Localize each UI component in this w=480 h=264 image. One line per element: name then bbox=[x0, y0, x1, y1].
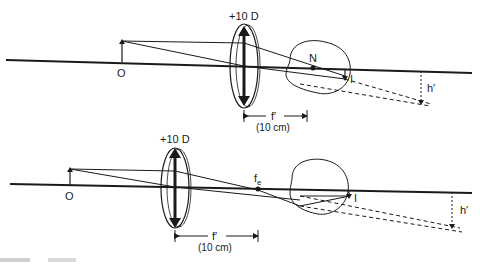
optical-axis-bottom bbox=[10, 184, 472, 193]
focal-length-label-bottom: f′ bbox=[212, 230, 217, 242]
top-diagram: +10 D N I h′ f′ (10 cm) O bbox=[6, 10, 472, 133]
image-height-label-bottom: h′ bbox=[460, 204, 468, 216]
lens-power-label-top: +10 D bbox=[229, 10, 259, 22]
object-label-top: O bbox=[117, 67, 126, 79]
image-label-top: I bbox=[350, 73, 353, 85]
node-point-top bbox=[311, 66, 316, 71]
node-label: N bbox=[309, 52, 317, 64]
image-label-bottom: I bbox=[354, 192, 357, 204]
lens-power-label-bottom: +10 D bbox=[160, 133, 190, 145]
focal-length-label-top: f′ bbox=[271, 110, 276, 122]
focus-point bbox=[256, 187, 261, 192]
focus-label: fe bbox=[254, 172, 262, 187]
cropped-caption bbox=[0, 258, 30, 262]
focal-length-value-bottom: (10 cm) bbox=[198, 242, 232, 253]
focal-length-value-top: (10 cm) bbox=[256, 122, 290, 133]
image-height-label-top: h′ bbox=[427, 82, 435, 94]
object-label-bottom: O bbox=[65, 190, 74, 202]
optical-axis-top bbox=[6, 60, 472, 73]
bottom-diagram: O +10 D fe I h′ bbox=[10, 133, 472, 253]
magnifier-diagram: +10 D N I h′ f′ (10 cm) O O bbox=[0, 0, 480, 264]
